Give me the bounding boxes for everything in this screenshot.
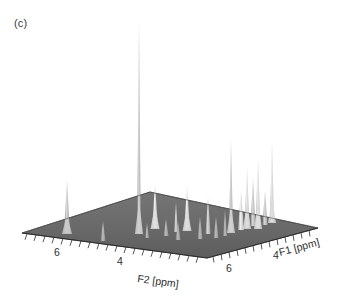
peak-p17 bbox=[263, 190, 268, 225]
spectrum-plot: 6 4 F2 [ppm] 6 4 bbox=[0, 0, 345, 305]
f1-tick-label-0: 6 bbox=[226, 262, 232, 274]
f2-tick-label-0: 6 bbox=[54, 246, 60, 258]
peak-p15 bbox=[251, 178, 256, 226]
f2-tick-label-1: 4 bbox=[117, 255, 123, 267]
peak-p13 bbox=[238, 190, 244, 230]
f2-axis-title: F2 [ppm] bbox=[137, 272, 180, 289]
f1-axis-title: F1 [ppm] bbox=[277, 236, 320, 258]
nmr-figure-panel: (c) bbox=[0, 0, 345, 305]
